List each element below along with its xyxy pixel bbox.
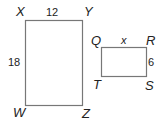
vertex-w-label: W (13, 105, 27, 120)
vertex-s-label: S (145, 78, 154, 93)
vertex-z-label: Z (81, 106, 91, 121)
side-xw-length: 18 (8, 56, 20, 68)
side-rs-length: 6 (148, 56, 154, 68)
diagram-canvas: X Y Z W 12 18 Q R S T x 6 (0, 0, 158, 125)
vertex-t-label: T (93, 77, 102, 92)
vertex-x-label: X (15, 4, 26, 19)
vertex-q-label: Q (91, 33, 101, 48)
vertex-r-label: R (146, 33, 155, 48)
side-qr-length: x (120, 34, 127, 46)
rectangle-xyzw (26, 21, 83, 106)
vertex-y-label: Y (84, 4, 94, 19)
rectangle-qrst (102, 48, 147, 77)
side-xy-length: 12 (46, 6, 58, 18)
